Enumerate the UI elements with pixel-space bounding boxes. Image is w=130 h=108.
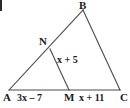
geometry-figure: A B C M N 3x – 7 x + 11 x + 5 <box>0 0 130 108</box>
vertex-label-a: A <box>3 92 11 103</box>
segment-label-am: 3x – 7 <box>17 93 42 103</box>
side-BC <box>83 10 120 90</box>
side-AB <box>9 10 83 90</box>
vertex-label-m: M <box>64 92 74 103</box>
segment-label-mc: x + 11 <box>79 93 104 103</box>
vertex-label-b: B <box>79 0 86 11</box>
segment-label-nm: x + 5 <box>57 55 78 65</box>
vertex-label-n: N <box>39 36 47 47</box>
vertex-label-c: C <box>120 92 128 103</box>
